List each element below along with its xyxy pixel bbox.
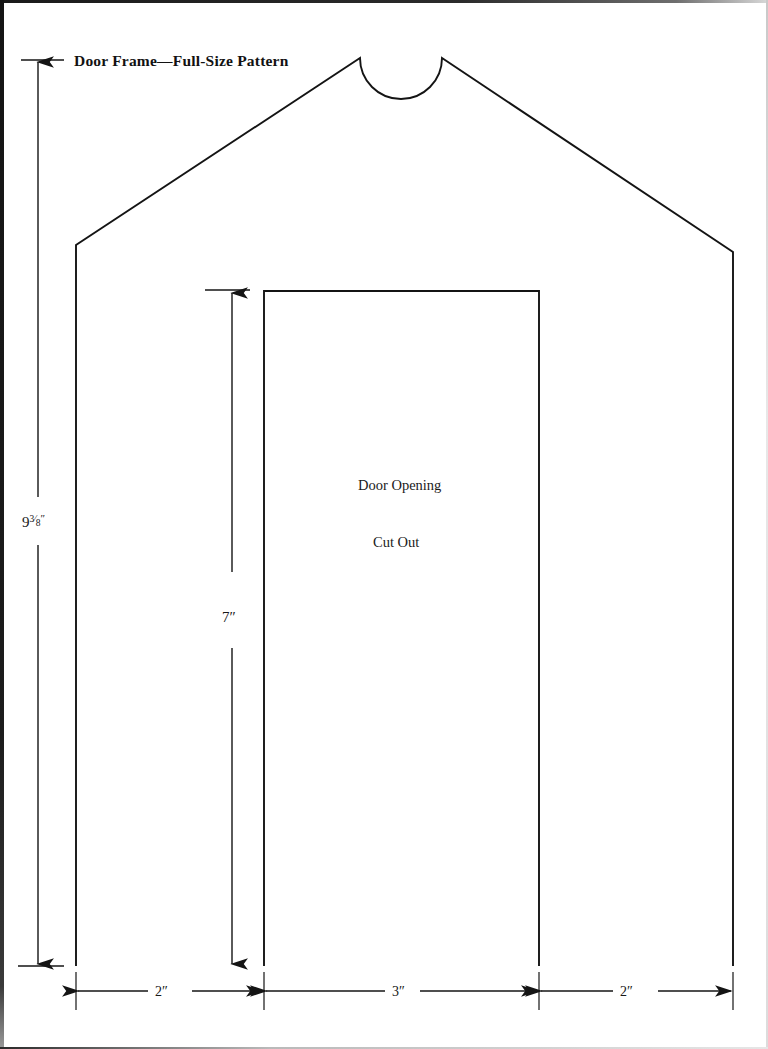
door-frame-outline xyxy=(76,58,733,966)
bottom-width-dimensions: 2″ 3″ 2″ xyxy=(76,972,733,1010)
door-opening-outline xyxy=(264,291,539,966)
bottom-width-segment-left: 2″ xyxy=(78,984,262,999)
door-opening-height-label: 7″ xyxy=(222,609,236,625)
overall-height-dimension: 93⁄8″ xyxy=(18,60,64,966)
door-frame-pattern-drawing: 93⁄8″ 7″ 2″ xyxy=(0,0,768,1049)
pattern-page: Door Frame—Full-Size Pattern xyxy=(0,0,768,1049)
door-opening-height-dimension: 7″ xyxy=(205,290,250,964)
bottom-width-label-right: 2″ xyxy=(620,984,633,999)
overall-height-label: 93⁄8″ xyxy=(22,512,45,530)
overall-height-whole: 9 xyxy=(22,514,30,530)
cut-out-annotation: Cut Out xyxy=(373,534,419,550)
bottom-width-segment-center: 3″ xyxy=(266,984,537,999)
door-opening-annotation: Door Opening xyxy=(358,477,441,493)
bottom-width-label-left: 2″ xyxy=(155,984,168,999)
bottom-width-label-center: 3″ xyxy=(392,984,405,999)
overall-height-unit: ″ xyxy=(41,512,46,524)
bottom-width-segment-right: 2″ xyxy=(541,984,731,999)
